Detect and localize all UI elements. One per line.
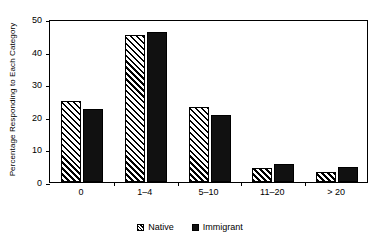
legend-swatch-native-icon xyxy=(137,224,144,231)
y-tick-label: 30 xyxy=(2,80,42,90)
bar-native-1 xyxy=(125,35,145,182)
y-axis-title: Percentage Responding to Each Category xyxy=(8,7,17,192)
bar-native-4 xyxy=(316,172,336,182)
x-tick-mark xyxy=(241,182,242,186)
y-tick-label: 40 xyxy=(2,48,42,58)
x-tick-mark xyxy=(114,182,115,186)
y-tick-mark xyxy=(46,151,50,152)
y-tick-mark xyxy=(46,119,50,120)
bar-immigrant-2 xyxy=(211,115,231,182)
y-tick-mark xyxy=(46,54,50,55)
x-tick-mark xyxy=(305,182,306,186)
legend-label-immigrant: Immigrant xyxy=(203,222,243,232)
bar-immigrant-1 xyxy=(147,32,167,182)
plot-area: 01020304050 xyxy=(49,20,368,183)
y-tick-label: 50 xyxy=(2,15,42,25)
bar-immigrant-3 xyxy=(274,164,294,182)
x-axis-label-2: 5–10 xyxy=(177,187,241,197)
y-tick-label: 10 xyxy=(2,145,42,155)
x-axis-label-0: 0 xyxy=(49,187,113,197)
chart-legend: Native Immigrant xyxy=(0,222,380,232)
bar-immigrant-4 xyxy=(338,167,358,182)
x-axis-label-1: 1–4 xyxy=(113,187,177,197)
x-axis-label-3: 11–20 xyxy=(240,187,304,197)
y-tick-mark xyxy=(46,21,50,22)
legend-swatch-immigrant-icon xyxy=(192,224,199,231)
bar-immigrant-0 xyxy=(83,109,103,182)
y-tick-mark xyxy=(46,86,50,87)
bar-native-2 xyxy=(189,107,209,182)
y-tick-mark xyxy=(46,184,50,185)
y-tick-label: 20 xyxy=(2,113,42,123)
x-tick-mark xyxy=(178,182,179,186)
bar-chart: Percentage Responding to Each Category 0… xyxy=(0,0,380,242)
bar-native-0 xyxy=(61,101,81,182)
bar-native-3 xyxy=(252,168,272,182)
y-tick-label: 0 xyxy=(2,178,42,188)
legend-item-native: Native xyxy=(137,222,174,232)
legend-item-immigrant: Immigrant xyxy=(192,222,243,232)
x-axis-label-4: > 20 xyxy=(304,187,368,197)
legend-label-native: Native xyxy=(148,222,174,232)
